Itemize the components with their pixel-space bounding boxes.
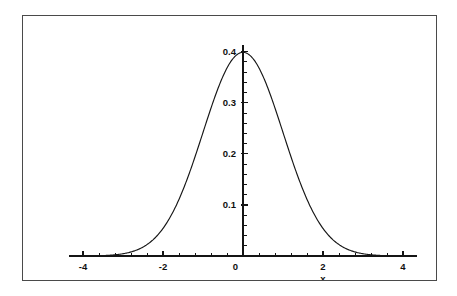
- x-axis-tick-labels: -4-2024: [79, 261, 407, 272]
- x-tick-label: -4: [79, 261, 88, 272]
- normal-distribution-chart: -4-2024 0.10.20.30.4 x: [23, 16, 436, 280]
- x-tick-label: 2: [320, 261, 325, 272]
- y-tick-label: 0.3: [223, 97, 236, 108]
- y-tick-label: 0.4: [223, 46, 237, 57]
- plot-frame: -4-2024 0.10.20.30.4 x: [22, 15, 437, 281]
- y-tick-label: 0.2: [223, 148, 236, 159]
- x-tick-label: -2: [159, 261, 167, 272]
- y-tick-label: 0.1: [223, 199, 237, 210]
- x-axis-title: x: [320, 273, 326, 280]
- figure-root: -4-2024 0.10.20.30.4 x: [0, 0, 457, 296]
- x-tick-label: 0: [233, 261, 238, 272]
- x-tick-label: 4: [400, 261, 406, 272]
- y-axis-major-ticks: [241, 52, 249, 205]
